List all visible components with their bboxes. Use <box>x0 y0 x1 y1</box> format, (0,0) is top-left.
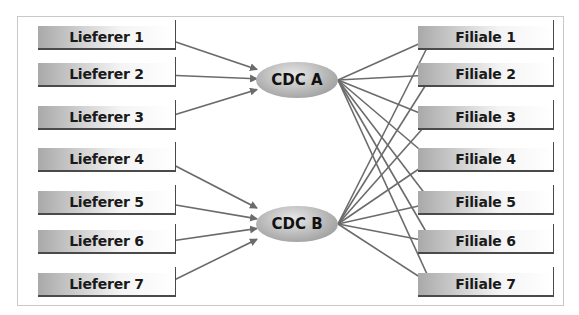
branch-label: Filiale 4 <box>455 151 516 167</box>
supplier-label: Lieferer 7 <box>69 276 144 292</box>
supplier-box-7: Lieferer 7 <box>38 273 176 297</box>
branch-label: Filiale 6 <box>455 233 516 249</box>
supplier-box-3: Lieferer 3 <box>38 106 176 130</box>
supplier-label: Lieferer 4 <box>69 151 144 167</box>
hub-cdc-a: CDC A <box>256 62 338 98</box>
supplier-box-6: Lieferer 6 <box>38 230 176 254</box>
supplier-box-4: Lieferer 4 <box>38 148 176 172</box>
branch-label: Filiale 7 <box>455 276 516 292</box>
supplier-label: Lieferer 3 <box>69 109 144 125</box>
branch-box-6: Filiale 6 <box>418 230 554 254</box>
supplier-label: Lieferer 2 <box>69 66 144 82</box>
supplier-box-5: Lieferer 5 <box>38 191 176 215</box>
branch-label: Filiale 5 <box>455 194 516 210</box>
branch-box-3: Filiale 3 <box>418 106 554 130</box>
supplier-label: Lieferer 1 <box>69 29 144 45</box>
branch-box-1: Filiale 1 <box>418 26 554 50</box>
supplier-label: Lieferer 6 <box>69 233 144 249</box>
hub-label: CDC A <box>271 71 322 89</box>
branch-box-2: Filiale 2 <box>418 63 554 87</box>
branch-label: Filiale 2 <box>455 66 516 82</box>
supplier-label: Lieferer 5 <box>69 194 144 210</box>
branch-box-4: Filiale 4 <box>418 148 554 172</box>
branch-label: Filiale 3 <box>455 109 516 125</box>
supplier-box-2: Lieferer 2 <box>38 63 176 87</box>
supplier-box-1: Lieferer 1 <box>38 26 176 50</box>
hub-cdc-b: CDC B <box>256 206 338 242</box>
branch-box-7: Filiale 7 <box>418 273 554 297</box>
hub-label: CDC B <box>271 215 322 233</box>
branch-label: Filiale 1 <box>455 29 516 45</box>
branch-box-5: Filiale 5 <box>418 191 554 215</box>
